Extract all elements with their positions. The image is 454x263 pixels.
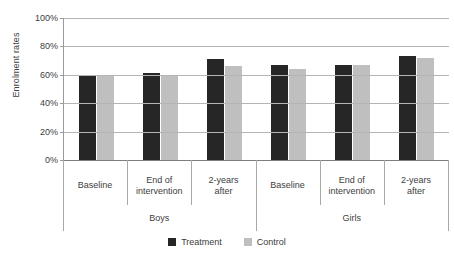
bar-control-1 [161, 75, 178, 160]
legend-swatch-icon [244, 238, 252, 246]
legend-label: Treatment [181, 237, 222, 247]
category-label: End ofintervention [127, 160, 191, 205]
category-label: Baseline [63, 160, 127, 205]
category-label-line: End of [339, 175, 365, 187]
y-tick-label: 40% [40, 98, 58, 108]
y-tick-label: 20% [40, 127, 58, 137]
y-axis-tickmark [60, 18, 64, 19]
group-separator [63, 205, 64, 231]
category-label-line: after [214, 186, 232, 198]
group-label-boys: Boys [63, 205, 256, 231]
bar-control-5 [417, 58, 434, 160]
y-axis-tickmark [60, 46, 64, 47]
category-separator [256, 160, 257, 205]
bar-treatment-4 [335, 65, 352, 160]
category-label-line: intervention [328, 186, 375, 198]
legend-item-control[interactable]: Control [244, 237, 286, 247]
category-label: End ofintervention [320, 160, 384, 205]
legend-label: Control [257, 237, 286, 247]
category-separator [320, 160, 321, 205]
y-tick-label: 0% [45, 155, 58, 165]
y-tick-label: 60% [40, 70, 58, 80]
bar-control-3 [289, 69, 306, 160]
category-separator [384, 160, 385, 205]
category-label: Baseline [256, 160, 320, 205]
y-axis-tick-labels: 100%80%60%40%20%0% [22, 18, 62, 160]
gridline [64, 75, 449, 76]
bar-control-0 [97, 76, 114, 160]
y-axis-tickmark [60, 132, 64, 133]
chart-legend: TreatmentControl [0, 237, 454, 247]
group-separator [256, 205, 257, 231]
category-separator [127, 160, 128, 205]
y-tick-label: 80% [40, 41, 58, 51]
category-label: 2-yearsafter [191, 160, 255, 205]
plot-area [63, 18, 449, 160]
category-label-line: Baseline [78, 180, 113, 192]
category-separator [191, 160, 192, 205]
gridline [64, 132, 449, 133]
bar-treatment-1 [143, 73, 160, 160]
bars-layer [64, 18, 449, 160]
category-label-line: 2-years [208, 175, 238, 187]
group-label-girls: Girls [256, 205, 449, 231]
bar-treatment-3 [271, 65, 288, 160]
category-label: 2-yearsafter [384, 160, 448, 205]
category-label-line: End of [146, 175, 172, 187]
group-separator [448, 205, 449, 231]
y-axis-tickmark [60, 103, 64, 104]
category-label-line: after [407, 186, 425, 198]
gridline [64, 18, 449, 19]
y-axis-title: Enrolment rates [11, 5, 21, 125]
gridline [64, 46, 449, 47]
category-label-line: 2-years [401, 175, 431, 187]
bar-treatment-0 [79, 75, 96, 160]
legend-swatch-icon [168, 238, 176, 246]
category-separator [448, 160, 449, 205]
category-axis: BaselineEnd ofintervention2-yearsafterBa… [63, 160, 448, 205]
bar-control-2 [225, 66, 242, 160]
legend-item-treatment[interactable]: Treatment [168, 237, 222, 247]
enrolment-rates-bar-chart: Enrolment rates 100%80%60%40%20%0% Basel… [0, 0, 454, 263]
bar-control-4 [353, 65, 370, 160]
bar-treatment-5 [399, 56, 416, 160]
category-separator [63, 160, 64, 205]
y-tick-label: 100% [35, 13, 58, 23]
category-label-line: intervention [136, 186, 183, 198]
gridline [64, 103, 449, 104]
category-label-line: Baseline [270, 180, 305, 192]
y-axis-tickmark [60, 75, 64, 76]
group-axis: BoysGirls [63, 205, 448, 231]
